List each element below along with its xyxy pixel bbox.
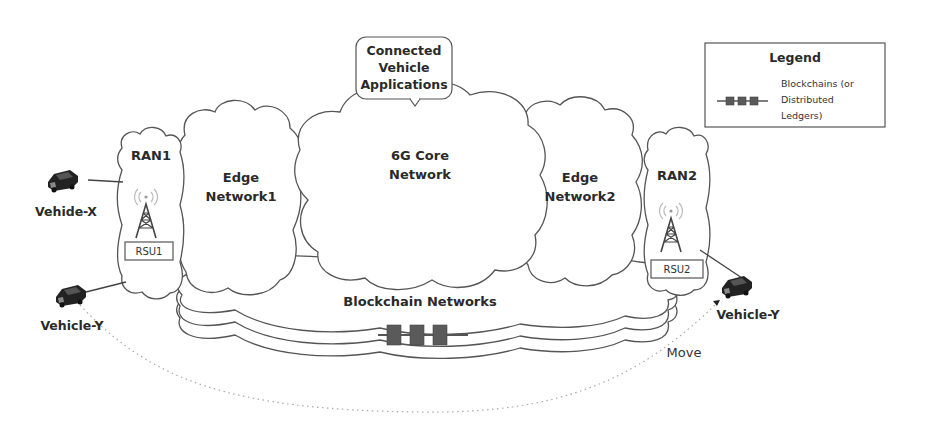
edge-network2-label-line1: Edge xyxy=(562,170,598,185)
blockchain-networks-label: Blockchain Networks xyxy=(343,294,497,309)
edge-network1-label-line2: Network1 xyxy=(206,189,277,204)
callout-line1: Connected xyxy=(367,43,442,58)
vehicle-x-label: Vehide-X xyxy=(35,204,97,219)
move-label: Move xyxy=(667,345,702,360)
legend-item-line3: Ledgers) xyxy=(781,110,822,121)
vehicle-x-link xyxy=(88,180,123,182)
core-network-cloud xyxy=(295,82,547,290)
network-diagram: Blockchain Networks 6G Core Network Edge… xyxy=(0,0,925,429)
vehicle-y-right-car-icon xyxy=(722,276,752,299)
edge-network1-label-line1: Edge xyxy=(223,170,259,185)
vehicle-y-left-label: Vehicle-Y xyxy=(40,318,104,333)
legend-title: Legend xyxy=(769,50,821,65)
callout-line3: Applications xyxy=(360,77,447,92)
core-network-label-line2: Network xyxy=(389,167,451,182)
core-network-label-line1: 6G Core xyxy=(391,148,449,163)
rsu1-label: RSU1 xyxy=(136,246,163,257)
vehicle-x-car-icon xyxy=(48,170,78,193)
ran2-label: RAN2 xyxy=(657,168,697,183)
vehicle-y-right-label: Vehicle-Y xyxy=(716,307,780,322)
vehicle-y-left-link xyxy=(86,282,126,292)
vehicle-y-left-car-icon xyxy=(56,285,86,308)
edge-network2-label-line2: Network2 xyxy=(545,189,616,204)
ran1-label: RAN1 xyxy=(131,148,171,163)
rsu2-label: RSU2 xyxy=(664,264,691,275)
legend-item-line1: Blockchains (or xyxy=(781,78,854,89)
legend-item-line2: Distributed xyxy=(781,94,834,105)
callout-line2: Vehicle xyxy=(379,60,430,75)
